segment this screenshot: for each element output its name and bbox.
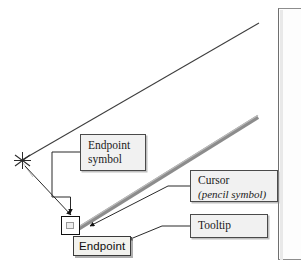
right-dialog-panel-edge bbox=[278, 8, 301, 260]
callout-cursor-line2: (pencil symbol) bbox=[198, 188, 277, 202]
panel-edge-shade bbox=[280, 10, 283, 260]
leader-vertex-to-endpoint bbox=[25, 166, 71, 215]
callout-endpoint-symbol-line1: Endpoint bbox=[88, 139, 130, 151]
annotated-cad-figure: Endpoint Endpoint symbol Cursor (pencil … bbox=[0, 0, 301, 267]
callout-cursor-line1: Cursor bbox=[198, 174, 229, 186]
endpoint-tooltip: Endpoint bbox=[73, 236, 131, 256]
callout-endpoint-symbol: Endpoint symbol bbox=[80, 134, 146, 171]
leader-tooltip bbox=[128, 226, 190, 240]
callout-cursor: Cursor (pencil symbol) bbox=[190, 170, 278, 202]
callout-tooltip: Tooltip bbox=[190, 214, 268, 238]
endpoint-snap-marker bbox=[61, 216, 80, 235]
endpoint-tooltip-label: Endpoint bbox=[79, 240, 125, 252]
leader-endpoint-symbol bbox=[52, 152, 80, 213]
callout-tooltip-line1: Tooltip bbox=[198, 219, 231, 231]
callout-endpoint-symbol-line2: symbol bbox=[88, 153, 145, 167]
vertex-asterisk-marker bbox=[14, 152, 31, 169]
endpoint-snap-marker-inner bbox=[66, 222, 74, 229]
